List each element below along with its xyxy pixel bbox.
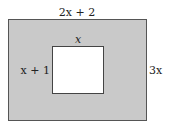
inner-rectangle — [53, 47, 104, 94]
inner-height-label: x + 1 — [21, 64, 50, 77]
area-diagram: 2x + 2 3x x x + 1 — [0, 0, 184, 125]
outer-height-label: 3x — [149, 64, 163, 77]
inner-width-label: x — [75, 33, 82, 46]
outer-width-label: 2x + 2 — [59, 6, 95, 19]
